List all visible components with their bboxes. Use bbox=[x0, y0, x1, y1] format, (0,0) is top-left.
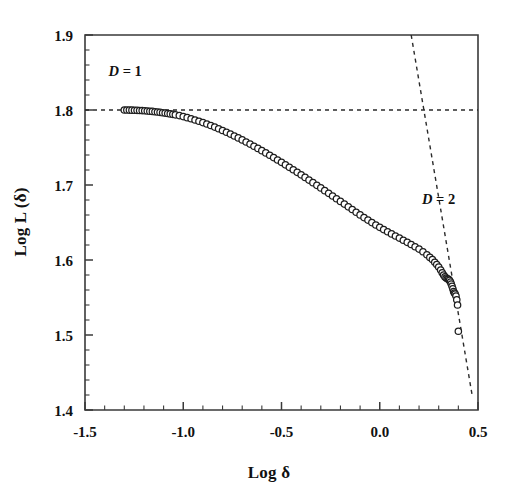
plot-border bbox=[85, 35, 478, 410]
reference-lines bbox=[85, 35, 478, 395]
axis-tick-labels: -1.5-1.0-0.50.00.51.41.51.61.71.81.9 bbox=[54, 28, 487, 441]
data-series-markers bbox=[121, 107, 461, 335]
annotation-symbol: D bbox=[421, 191, 433, 207]
x-tick-label: 0.5 bbox=[469, 424, 488, 440]
x-tick-label: 0.0 bbox=[370, 424, 389, 440]
annotation-value: = 1 bbox=[119, 63, 142, 79]
y-tick-label: 1.6 bbox=[54, 253, 73, 269]
data-point-marker bbox=[454, 302, 460, 308]
y-tick-label: 1.5 bbox=[54, 328, 73, 344]
y-tick-label: 1.4 bbox=[54, 403, 73, 419]
x-tick-label: -1.0 bbox=[171, 424, 195, 440]
data-point-marker bbox=[455, 328, 461, 334]
chart-canvas: -1.5-1.0-0.50.00.51.41.51.61.71.81.9 D =… bbox=[0, 0, 513, 498]
annotation-label-d1: D = 1 bbox=[108, 63, 142, 79]
reference-line-labels: D = 1D = 2 bbox=[108, 63, 456, 207]
annotation-value: = 2 bbox=[432, 191, 455, 207]
y-tick-label: 1.8 bbox=[54, 103, 73, 119]
y-tick-label: 1.9 bbox=[54, 28, 73, 44]
annotation-symbol: D bbox=[108, 63, 120, 79]
annotation-label-d2: D = 2 bbox=[421, 191, 455, 207]
reference-line-d2 bbox=[411, 35, 472, 395]
y-axis-title: Log L (δ) bbox=[11, 187, 30, 256]
richardson-plot-figure: -1.5-1.0-0.50.00.51.41.51.61.71.81.9 D =… bbox=[0, 0, 513, 498]
x-tick-label: -0.5 bbox=[270, 424, 294, 440]
x-axis-title: Log δ bbox=[248, 463, 290, 482]
plot-frame bbox=[85, 35, 478, 410]
y-tick-label: 1.7 bbox=[54, 178, 73, 194]
x-tick-label: -1.5 bbox=[73, 424, 97, 440]
axis-ticks bbox=[85, 35, 478, 410]
